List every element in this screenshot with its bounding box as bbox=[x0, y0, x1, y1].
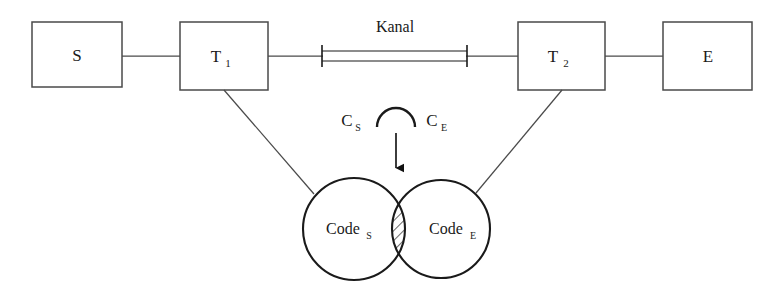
code-e-label: Code bbox=[429, 220, 463, 237]
box-empfaenger-label: E bbox=[703, 47, 713, 66]
box-transmitter-subscript: 1 bbox=[225, 57, 231, 69]
box-receiver-label: T bbox=[548, 47, 559, 66]
venn-diagram: Code S Code E bbox=[303, 178, 490, 280]
diagram-canvas: S T 1 T 2 E Kanal bbox=[0, 0, 783, 300]
channel-symbol[interactable]: Kanal bbox=[322, 18, 467, 67]
box-empfaenger[interactable]: E bbox=[663, 22, 752, 90]
code-e-subscript: E bbox=[470, 230, 476, 241]
box-receiver-rect bbox=[518, 22, 605, 90]
box-transmitter[interactable]: T 1 bbox=[180, 22, 268, 90]
code-s-subscript: S bbox=[366, 230, 372, 241]
box-receiver[interactable]: T 2 bbox=[518, 22, 605, 90]
c-e-label: C bbox=[426, 111, 437, 130]
c-e-subscript: E bbox=[441, 122, 447, 133]
connector-t1-to-code-s bbox=[224, 90, 314, 194]
c-s-label: C bbox=[341, 111, 352, 130]
box-receiver-subscript: 2 bbox=[563, 57, 569, 69]
code-s-label: Code bbox=[326, 220, 360, 237]
box-sender[interactable]: S bbox=[32, 22, 122, 87]
box-sender-label: S bbox=[72, 46, 81, 65]
box-transmitter-rect bbox=[180, 22, 268, 90]
set-operation-group: C S C E bbox=[341, 108, 447, 168]
intersection-arc-icon bbox=[377, 108, 415, 127]
channel-label: Kanal bbox=[376, 18, 415, 35]
box-transmitter-label: T bbox=[211, 47, 222, 66]
c-s-subscript: S bbox=[355, 122, 361, 133]
diagonal-connectors bbox=[224, 90, 562, 194]
connector-t2-to-code-e bbox=[476, 90, 562, 193]
communication-model-diagram: S T 1 T 2 E Kanal bbox=[0, 0, 783, 300]
